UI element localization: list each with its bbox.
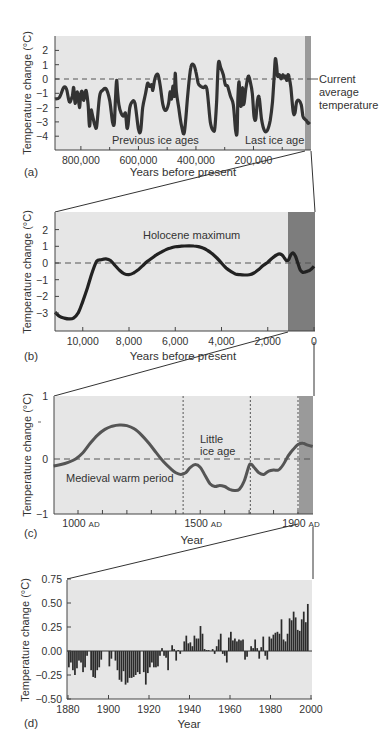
bar xyxy=(246,651,248,657)
bar xyxy=(238,639,240,651)
bar xyxy=(137,651,139,672)
bar xyxy=(100,651,102,660)
bar xyxy=(163,651,165,656)
bar xyxy=(90,651,92,670)
bar xyxy=(266,651,268,660)
bar xyxy=(271,639,273,651)
bar xyxy=(157,651,159,666)
bar xyxy=(307,604,309,651)
bar xyxy=(283,639,285,651)
bar xyxy=(232,640,234,651)
panel-c-xtick-label: 1500 AD xyxy=(185,517,223,529)
bar xyxy=(244,651,246,660)
panel-c-xtick-label: 1000 AD xyxy=(62,517,100,529)
panel-a-ytick-label: −4 xyxy=(36,130,48,142)
bar xyxy=(250,646,252,651)
panel-d-ytick-label: 0.25 xyxy=(42,621,63,633)
bar xyxy=(149,651,151,667)
panel-b-xtick-label: 2,000 xyxy=(255,335,281,347)
panel-c-chart: 10−11000 AD1500 AD1900 AD Medieval warm … xyxy=(21,390,320,546)
bar xyxy=(194,636,196,651)
zoom-connector-a-b-right xyxy=(311,151,315,212)
bar xyxy=(198,639,200,651)
bar xyxy=(240,640,242,651)
bar xyxy=(224,651,226,656)
bar xyxy=(123,651,125,671)
panel-c-ytick-label: −1 xyxy=(36,508,48,520)
bar xyxy=(139,651,141,674)
bar xyxy=(86,651,88,656)
bar xyxy=(297,630,299,651)
annotation-previous-ice-ages: Previous ice ages xyxy=(112,134,199,146)
panel-c-highlight-band xyxy=(299,396,313,514)
bar xyxy=(78,651,80,661)
annotation-current-avg-line3: temperature xyxy=(319,99,378,111)
bar xyxy=(273,635,275,651)
panel-b-label: (b) xyxy=(24,350,38,362)
bar xyxy=(254,639,256,651)
panel-c-xlabel: Year xyxy=(180,534,203,546)
panel-a-ytick-label: 0 xyxy=(42,73,48,85)
panel-d-label: (d) xyxy=(24,717,38,729)
bar xyxy=(165,651,167,658)
bar xyxy=(258,651,260,659)
bar xyxy=(74,651,76,675)
panel-d-ylabel: Temperature change (°C) xyxy=(19,578,31,702)
bar xyxy=(171,645,173,651)
panel-b-xtick-label: 4,000 xyxy=(208,335,234,347)
bar xyxy=(192,646,194,651)
bar xyxy=(289,618,291,651)
panel-c-ytick-label: 1 xyxy=(42,390,48,402)
zoom-connector-c-d-left xyxy=(67,524,298,579)
bar xyxy=(117,651,119,670)
bar xyxy=(202,634,204,651)
bar xyxy=(119,651,121,680)
bar xyxy=(183,641,185,651)
bar xyxy=(305,622,307,651)
panel-a-ytick-label: −1 xyxy=(36,87,48,99)
panel-d-xtick-label: 1960 xyxy=(218,703,242,715)
bar xyxy=(167,651,169,670)
annotation-little-ice-age-line1: Little xyxy=(200,433,223,445)
bar xyxy=(127,651,129,683)
panel-b-ytick-label: 1 xyxy=(42,240,48,252)
bar xyxy=(228,638,230,651)
panel-a-highlight-band xyxy=(305,36,311,150)
panel-a-xtick-label: 400,000 xyxy=(177,154,215,166)
bar xyxy=(92,651,94,677)
panel-a-ytick-label: −2 xyxy=(36,102,48,114)
bar xyxy=(196,639,198,651)
bar xyxy=(226,651,228,663)
bar xyxy=(115,651,117,661)
bar xyxy=(187,643,189,651)
bar xyxy=(185,636,187,651)
bar xyxy=(145,651,147,685)
bar xyxy=(82,651,84,672)
bar xyxy=(277,632,279,651)
climate-figure: 210−1−2−3−4800,000600,000400,000200,000 … xyxy=(0,0,385,745)
panel-a-label: (a) xyxy=(24,166,38,178)
bar xyxy=(264,651,266,656)
bar xyxy=(218,639,220,651)
bar xyxy=(275,633,277,651)
bar xyxy=(287,634,289,651)
annotation-current-avg-line1: Current xyxy=(319,73,356,85)
bar xyxy=(109,651,111,666)
bar xyxy=(216,646,218,651)
panel-d-ytick-label: 0.75 xyxy=(42,573,63,585)
panel-d-xtick-label: 1980 xyxy=(259,703,283,715)
panel-d-xtick-label: 2000 xyxy=(299,703,323,715)
bar xyxy=(151,651,153,663)
bar xyxy=(220,634,222,651)
bar xyxy=(159,651,161,656)
bar xyxy=(76,651,78,668)
bar xyxy=(190,642,192,651)
panel-d-ytick-label: 0.50 xyxy=(42,597,63,609)
panel-b-ytick-label: −3 xyxy=(36,307,48,319)
panel-a-ylabel: Temperature change (°C) xyxy=(21,31,33,155)
bar xyxy=(301,619,303,651)
panel-a-xtick-label: 800,000 xyxy=(62,154,100,166)
panel-b-ytick-label: −1 xyxy=(36,274,48,286)
panel-d-xtick-label: 1940 xyxy=(178,703,202,715)
panel-d-xlabel: Year xyxy=(177,718,200,730)
